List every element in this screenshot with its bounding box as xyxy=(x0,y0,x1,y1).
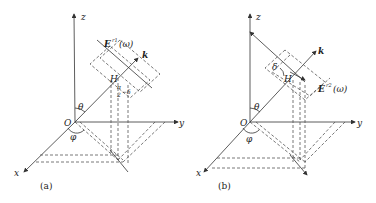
z-label-b: z xyxy=(255,12,261,22)
z-label-a: z xyxy=(80,12,86,22)
x-label-a: x xyxy=(14,168,19,178)
panel-a-labels: z y x O θ φ k H E r1 (ω) π 2 −δ (a) xyxy=(14,12,185,191)
panel-b-labels: z y x O θ φ k H δ E r2 (ω) (b) xyxy=(196,12,363,191)
x-axis xyxy=(204,122,250,172)
phi-label-b: φ xyxy=(246,134,253,144)
field-sup-b: r2 xyxy=(326,82,332,88)
x-label-b: x xyxy=(196,168,201,178)
phi-label-a: φ xyxy=(70,132,77,142)
dashed-planes xyxy=(212,50,345,168)
theta-label-b: θ xyxy=(254,102,260,112)
field-sup-a: r1 xyxy=(112,37,118,43)
theta-label-a: θ xyxy=(78,102,84,112)
projection-line xyxy=(110,150,128,172)
figure-canvas: z y x O θ φ k H E r1 (ω) π 2 −δ (a) xyxy=(0,0,376,203)
phi-arc xyxy=(243,128,259,133)
z-axis xyxy=(74,14,75,122)
field-arg-a: (ω) xyxy=(119,39,134,49)
origin-label-b: O xyxy=(240,118,248,128)
field-label-a: E xyxy=(103,39,111,49)
k-label-b: k xyxy=(318,46,324,56)
x-axis xyxy=(24,122,75,172)
y-label-a: y xyxy=(178,118,185,128)
delta-label-b: δ xyxy=(272,62,277,72)
tilt-den-a: 2 xyxy=(116,91,121,98)
caption-b: (b) xyxy=(218,181,231,191)
field-label-b: E xyxy=(317,84,325,94)
panel-a xyxy=(24,14,178,172)
field-arg-b: (ω) xyxy=(333,84,348,94)
k-label-a: k xyxy=(142,50,148,60)
h-label-b: H xyxy=(283,74,292,84)
origin-label-a: O xyxy=(64,118,72,128)
y-label-b: y xyxy=(356,118,363,128)
panel-b xyxy=(204,14,355,175)
tilt-rest-a: −δ xyxy=(122,88,131,95)
caption-a: (a) xyxy=(40,181,52,191)
